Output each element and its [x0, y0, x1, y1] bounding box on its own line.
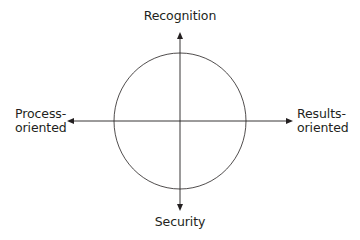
security-label: Security: [0, 215, 360, 229]
process-oriented-label-line2: oriented: [15, 121, 67, 135]
results-oriented-label-line1: Results-: [297, 107, 349, 121]
results-oriented-label-line2: oriented: [297, 121, 349, 135]
axis-label-left: Process- oriented: [15, 107, 67, 135]
recognition-label: Recognition: [0, 9, 360, 23]
quadrant-diagram: Recognition Security Process- oriented R…: [0, 0, 360, 240]
process-oriented-label-line1: Process-: [15, 107, 67, 121]
axis-label-top: Recognition: [0, 9, 360, 23]
arrow-up-icon: [177, 32, 183, 39]
arrow-down-icon: [177, 204, 183, 211]
axis-label-right: Results- oriented: [297, 107, 349, 135]
arrow-left-icon: [67, 118, 74, 124]
arrow-right-icon: [286, 118, 293, 124]
axis-label-bottom: Security: [0, 215, 360, 229]
